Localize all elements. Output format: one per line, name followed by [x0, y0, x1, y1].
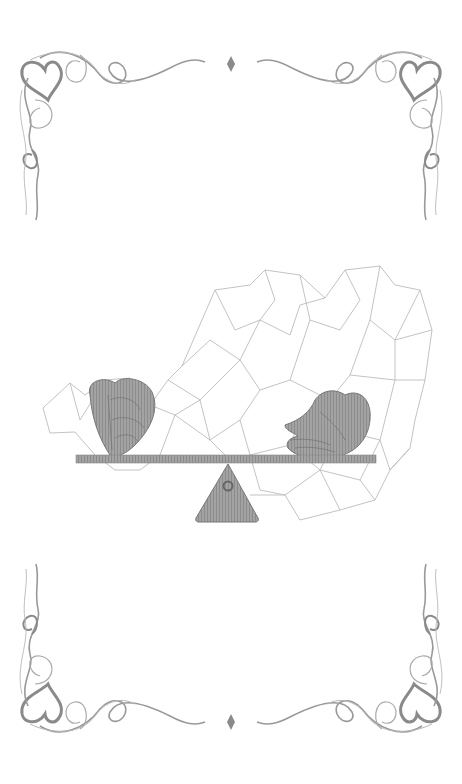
seesaw-fulcrum — [196, 464, 259, 522]
corner-swirl-bottom-left-icon — [20, 564, 205, 732]
open-hand — [285, 391, 370, 459]
corner-swirl-bottom-right-icon — [257, 564, 442, 732]
top-diamond-icon — [227, 56, 235, 72]
illustration-canvas — [0, 0, 462, 784]
seesaw-beam — [76, 455, 376, 463]
corner-swirl-top-left-icon — [20, 52, 205, 220]
corner-swirl-top-right-icon — [257, 52, 442, 220]
bottom-diamond-icon — [227, 714, 235, 730]
heart-fist — [89, 379, 154, 456]
